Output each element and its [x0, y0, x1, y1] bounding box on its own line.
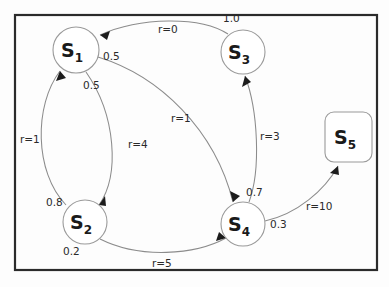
node-s1-sub: 1: [75, 51, 83, 65]
node-s1[interactable]: S1: [53, 27, 99, 73]
node-s4-label: S: [228, 213, 242, 235]
prob-s4-to-s5: 0.3: [270, 218, 287, 230]
prob-s3-to-s1: 1.0: [223, 12, 240, 24]
edge-s1-to-s2: [86, 72, 112, 206]
reward-s3-to-s1: r=0: [158, 23, 178, 35]
edge-s1-to-s4: [98, 57, 240, 202]
node-s3-sub: 3: [242, 53, 250, 67]
edge-s2-to-s4: [100, 232, 226, 252]
reward-s1-to-s4: r=1: [171, 112, 191, 124]
node-s2[interactable]: S2: [63, 200, 107, 244]
prob-s4-to-s3: 0.7: [246, 186, 263, 198]
node-s5[interactable]: S5: [325, 112, 372, 162]
edge-s4-to-s5: [265, 166, 339, 221]
node-s3[interactable]: S3: [221, 30, 265, 74]
diagram-canvas: S1 S2 S3 S4 S5 1.0: [0, 0, 389, 287]
node-s1-label: S: [61, 39, 75, 61]
reward-s2-to-s1: r=1: [20, 133, 40, 145]
reward-s4-to-s5: r=10: [306, 200, 332, 212]
edge-s2-to-s1: [41, 71, 66, 205]
reward-s2-to-s4: r=5: [152, 257, 172, 269]
node-s5-sub: 5: [348, 138, 356, 152]
reward-s1-to-s2: r=4: [128, 138, 148, 150]
prob-s2-to-s1: 0.8: [46, 196, 63, 208]
node-s2-sub: 2: [84, 223, 92, 237]
node-s2-label: S: [70, 211, 84, 233]
node-s3-label: S: [228, 41, 242, 63]
edge-s4-to-s3: [242, 76, 257, 202]
prob-s1-to-s4: 0.5: [103, 50, 120, 62]
prob-s1-to-s2: 0.5: [83, 79, 100, 91]
prob-s2-to-s4: 0.2: [63, 245, 80, 257]
node-s5-label: S: [334, 126, 348, 148]
reward-s4-to-s3: r=3: [260, 130, 280, 142]
node-s4-sub: 4: [242, 225, 250, 239]
node-s4[interactable]: S4: [221, 202, 265, 246]
